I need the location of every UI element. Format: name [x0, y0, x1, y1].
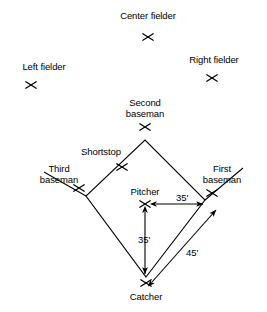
x-marker-right-fielder — [207, 75, 217, 81]
x-marker-third-baseman — [74, 185, 84, 191]
dimension-label-home-to-first: 45' — [186, 247, 198, 258]
x-marker-shortstop — [117, 164, 127, 170]
label-center-fielder: Center fielder — [119, 10, 177, 21]
x-marker-center-fielder — [143, 34, 153, 40]
dimension-label-pitcher-to-home: 35' — [138, 234, 150, 245]
x-marker-second-baseman — [140, 124, 150, 130]
baseball-field-diagram: Center fielder Left fielder Right fielde… — [0, 0, 267, 312]
field-graphics — [0, 0, 267, 312]
label-pitcher: Pitcher — [116, 186, 174, 197]
x-marker-catcher — [141, 280, 151, 286]
x-marker-left-fielder — [26, 82, 36, 88]
label-third-baseman: Third baseman — [30, 163, 88, 185]
label-right-fielder: Right fielder — [185, 54, 243, 65]
label-catcher: Catcher — [117, 291, 175, 302]
label-second-baseman: Second baseman — [116, 97, 174, 119]
x-marker-pitcher — [140, 201, 150, 207]
label-first-baseman: First baseman — [193, 163, 251, 185]
label-left-fielder: Left fielder — [15, 61, 73, 72]
label-shortstop: Shortstop — [72, 146, 130, 157]
dimension-label-pitcher-to-first: 35' — [176, 192, 188, 203]
dimension-line-home-to-first — [152, 210, 216, 282]
x-marker-first-baseman — [207, 190, 217, 196]
